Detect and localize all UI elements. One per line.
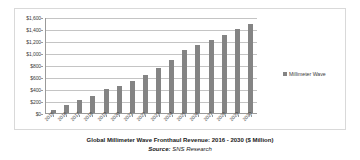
bar <box>222 35 227 113</box>
plot-area <box>45 18 257 114</box>
bar-slot <box>113 18 126 113</box>
bar <box>248 24 253 113</box>
bar-slot <box>205 18 218 113</box>
y-axis-tick <box>41 66 43 67</box>
bar <box>209 40 214 113</box>
bar-slot <box>86 18 99 113</box>
bar <box>235 29 240 113</box>
bar-slot <box>47 18 60 113</box>
y-axis-tick-label: $1,000 <box>26 51 41 57</box>
legend-item-label: Millimeter Wave <box>289 71 326 77</box>
bar-slot <box>139 18 152 113</box>
bar <box>195 45 200 113</box>
y-axis-tick <box>41 90 43 91</box>
y-axis-tick <box>41 114 43 115</box>
bar-slot <box>218 18 231 113</box>
bar-slot <box>100 18 113 113</box>
y-axis-tick-label: $800 <box>30 63 41 69</box>
bar-slot <box>231 18 244 113</box>
bar <box>156 68 161 113</box>
y-axis-tick <box>41 54 43 55</box>
bar-series <box>47 18 257 113</box>
bar <box>143 75 148 113</box>
bar <box>104 89 109 113</box>
y-axis-tick <box>41 102 43 103</box>
chart-frame: $0$200$400$600$800$1,000$1,200$1,400$1,6… <box>14 8 346 130</box>
bar-slot <box>244 18 257 113</box>
chart-caption: Global Millimeter Wave Fronthaul Revenue… <box>0 136 360 154</box>
bar-slot <box>73 18 86 113</box>
chart-legend: Millimeter Wave <box>283 71 326 77</box>
bar <box>182 50 187 113</box>
y-axis-tick-label: $200 <box>30 99 41 105</box>
bar <box>169 60 174 113</box>
chart-source-value: SNS Research <box>172 146 212 152</box>
y-axis-tick-label: $600 <box>30 75 41 81</box>
y-axis-tick-label: $1,200 <box>26 39 41 45</box>
bar-slot <box>178 18 191 113</box>
y-axis-tick-label: $400 <box>30 87 41 93</box>
y-axis: $0$200$400$600$800$1,000$1,200$1,400$1,6… <box>15 18 43 114</box>
y-axis-tick <box>41 78 43 79</box>
legend-square-marker-icon <box>283 72 287 76</box>
bar-slot <box>152 18 165 113</box>
y-axis-tick-label: $1,600 <box>26 15 41 21</box>
bar-slot <box>191 18 204 113</box>
bar-slot <box>60 18 73 113</box>
y-axis-tick <box>41 30 43 31</box>
chart-screenshot: $0$200$400$600$800$1,000$1,200$1,400$1,6… <box>0 0 360 160</box>
y-axis-tick-label: $1,400 <box>26 27 41 33</box>
chart-title: Global Millimeter Wave Fronthaul Revenue… <box>0 136 360 145</box>
y-axis-tick <box>41 18 43 19</box>
bar-slot <box>126 18 139 113</box>
chart-source: Source: SNS Research <box>0 145 360 154</box>
chart-source-label: Source: <box>148 146 170 152</box>
bar <box>117 86 122 113</box>
y-axis-tick <box>41 42 43 43</box>
bar-slot <box>165 18 178 113</box>
bar <box>130 81 135 113</box>
